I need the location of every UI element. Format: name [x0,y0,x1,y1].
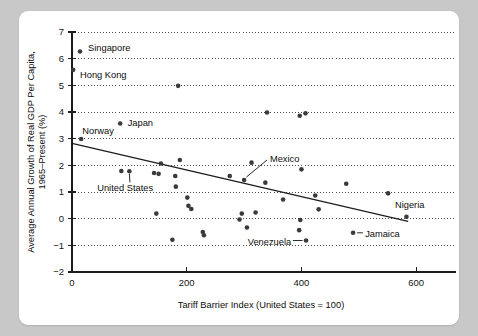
x-tick-label-0: 0 [69,277,74,288]
data-point [303,111,308,116]
data-point [281,197,286,202]
y-tick-label--1: −1 [53,240,64,251]
annotation-singapore: Singapore [88,43,130,53]
x-tick-label-600: 600 [408,277,424,288]
y-tick-label-3: 3 [59,133,64,144]
data-point [249,160,254,165]
data-point [344,181,349,186]
annotation-jamaica: Jamaica [365,229,400,239]
data-point [202,233,207,238]
y-axis-title-line2: 1965–Present (%) [37,115,47,190]
data-point [170,237,175,242]
annotation-united-states: United States [97,183,153,193]
data-point-jamaica [351,231,356,236]
figure-card: −2−1012345670200400600 SingaporeHong Kon… [19,11,459,325]
scatter-plot: −2−1012345670200400600 SingaporeHong Kon… [19,11,459,325]
data-point [297,228,302,233]
data-point [313,193,318,198]
y-tick-label-0: 0 [59,213,64,224]
y-axis-title-line1: Average Annual Growth of Real GDP Per Ca… [26,51,36,253]
data-point [176,84,181,89]
data-point-norway [79,137,84,142]
annotation-venezuela: Venezuela [248,237,292,247]
data-point-japan [118,121,123,126]
y-tick-label-1: 1 [59,186,64,197]
x-tick-label-400: 400 [294,277,310,288]
data-point [185,195,190,200]
data-point [316,207,321,212]
point-annotations: SingaporeHong KongJapanNorwayUnited Stat… [80,43,425,247]
annotation-mexico: Mexico [270,154,299,164]
data-point [297,113,302,118]
data-point [299,167,304,172]
axis-titles: Tariff Barrier Index (United States = 10… [26,51,344,310]
leader-line-united-states [129,174,130,183]
data-point-hong-kong [71,68,76,73]
data-point [154,211,159,216]
data-point [156,172,161,177]
annotation-norway: Norway [82,126,114,136]
axis-tick-labels: −2−1012345670200400600 [53,26,424,288]
x-tick-label-200: 200 [179,277,195,288]
y-tick-label-5: 5 [59,80,64,91]
x-axis-title: Tariff Barrier Index (United States = 10… [178,300,344,310]
data-point [298,218,303,223]
data-point [173,174,178,179]
data-point [227,174,232,179]
annotation-japan: Japan [128,118,153,128]
data-point [386,191,391,196]
data-point-united-states [127,169,132,174]
data-point-venezuela [304,238,309,243]
gridlines [72,32,456,245]
y-tick-label-6: 6 [59,53,64,64]
data-point [174,184,179,189]
data-point-mexico [242,178,247,183]
data-point [263,180,268,185]
axis-ticks [68,32,416,272]
annotation-nigeria: Nigeria [395,200,425,210]
y-tick-label-7: 7 [59,26,64,37]
data-point [178,158,183,163]
data-point [189,207,194,212]
data-point [245,225,250,230]
data-point [265,110,270,115]
data-point [152,171,157,176]
y-axis-title: Average Annual Growth of Real GDP Per Ca… [26,51,47,253]
data-point [119,169,124,174]
data-point [159,161,164,166]
annotation-hong-kong: Hong Kong [80,70,127,80]
y-tick-label--2: −2 [53,266,64,277]
data-point-singapore [78,49,83,54]
data-point [237,217,242,222]
data-point [253,210,258,215]
data-point-nigeria [404,215,409,220]
y-tick-label-2: 2 [59,160,64,171]
y-tick-label-4: 4 [59,106,64,117]
data-point [239,211,244,216]
